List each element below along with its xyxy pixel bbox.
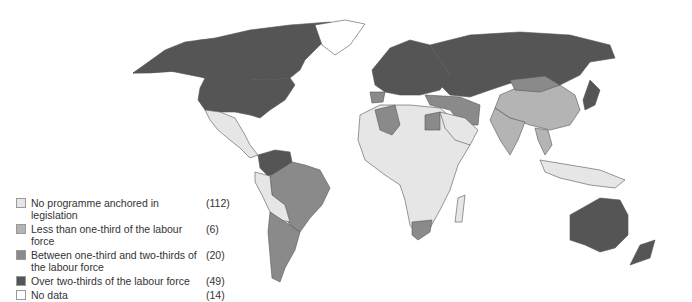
swatch-between xyxy=(16,250,26,260)
legend-item-no-programme: No programme anchored in legislation (11… xyxy=(16,197,236,221)
swatch-less-than-one-third xyxy=(16,224,26,234)
region-australia xyxy=(570,198,628,252)
region-south-africa xyxy=(412,220,432,240)
legend-count: (112) xyxy=(206,197,236,209)
region-greenland xyxy=(315,20,365,55)
swatch-no-programme xyxy=(16,198,26,208)
legend-count: (20) xyxy=(206,249,236,261)
swatch-over-two-thirds xyxy=(16,276,26,286)
legend-label: No programme anchored in legislation xyxy=(31,197,206,221)
legend-label: Less than one-third of the labour force xyxy=(31,223,206,247)
legend-label: Between one-third and two-thirds of the … xyxy=(31,249,206,273)
legend-label: No data xyxy=(31,289,206,301)
region-japan xyxy=(583,80,600,110)
region-iberia xyxy=(370,92,385,103)
legend-item-no-data: No data (14) xyxy=(16,289,236,301)
legend-item-between: Between one-third and two-thirds of the … xyxy=(16,249,236,273)
region-indonesia xyxy=(540,160,625,188)
legend-count: (14) xyxy=(206,289,236,301)
legend-item-over-two-thirds: Over two-thirds of the labour force (49) xyxy=(16,275,236,287)
region-egypt xyxy=(425,112,440,130)
legend-item-less-than-one-third: Less than one-third of the labour force … xyxy=(16,223,236,247)
legend-label: Over two-thirds of the labour force xyxy=(31,275,206,287)
region-alaska xyxy=(133,40,215,78)
region-madagascar xyxy=(455,195,465,222)
region-mexico-central-america xyxy=(205,110,258,158)
swatch-no-data xyxy=(16,290,26,300)
region-southeast-asia xyxy=(535,128,552,155)
legend: No programme anchored in legislation (11… xyxy=(16,197,236,302)
region-new-zealand xyxy=(630,240,655,265)
legend-count: (6) xyxy=(206,223,236,235)
legend-count: (49) xyxy=(206,275,236,287)
